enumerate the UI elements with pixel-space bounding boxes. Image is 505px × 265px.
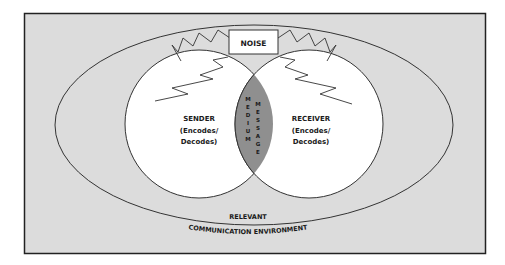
receiver-line2: Decodes) bbox=[293, 138, 330, 146]
svg-text:G: G bbox=[256, 141, 261, 147]
svg-text:U: U bbox=[246, 128, 250, 134]
svg-text:M: M bbox=[245, 96, 250, 102]
sender-title: SENDER bbox=[183, 115, 215, 123]
svg-text:A: A bbox=[256, 133, 261, 139]
svg-text:S: S bbox=[256, 125, 260, 131]
svg-text:I: I bbox=[247, 120, 249, 126]
sender-line2: Decodes) bbox=[181, 138, 218, 146]
svg-text:M: M bbox=[255, 101, 260, 107]
communication-diagram: NOISE SENDER (Encodes/ Decodes) RECEIVER… bbox=[0, 0, 505, 265]
sender-line1: (Encodes/ bbox=[180, 127, 219, 135]
svg-text:E: E bbox=[246, 104, 250, 110]
receiver-line1: (Encodes/ bbox=[292, 127, 331, 135]
svg-text:S: S bbox=[256, 117, 260, 123]
noise-label: NOISE bbox=[241, 39, 267, 48]
svg-text:E: E bbox=[256, 149, 260, 155]
svg-text:D: D bbox=[246, 112, 251, 118]
svg-text:E: E bbox=[256, 109, 260, 115]
environment-relevant-label: RELEVANT bbox=[229, 213, 267, 221]
receiver-title: RECEIVER bbox=[292, 115, 331, 123]
svg-text:M: M bbox=[245, 136, 250, 142]
